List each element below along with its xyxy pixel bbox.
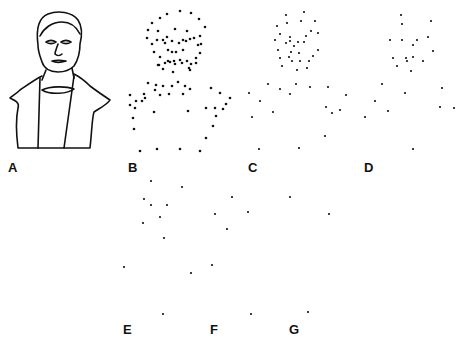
dot xyxy=(293,45,295,47)
dot xyxy=(401,23,403,25)
dot-panel-f xyxy=(162,186,249,315)
dot xyxy=(389,39,391,41)
dot xyxy=(159,17,162,20)
dot xyxy=(171,51,174,54)
dot xyxy=(205,137,208,140)
dot xyxy=(279,88,281,90)
dot xyxy=(164,62,167,65)
dot-panel-e xyxy=(123,180,168,268)
dot xyxy=(400,14,402,16)
dot xyxy=(185,40,188,43)
dot xyxy=(135,100,138,103)
dot xyxy=(307,311,309,313)
dot xyxy=(298,147,300,149)
dot xyxy=(195,62,198,65)
dot xyxy=(162,85,165,88)
dot xyxy=(312,55,314,57)
dot xyxy=(129,104,132,107)
dot xyxy=(214,213,216,215)
dot xyxy=(181,186,183,188)
dot-panel-d xyxy=(364,14,455,150)
dot xyxy=(143,198,145,200)
dot xyxy=(134,107,137,110)
dot xyxy=(156,148,159,151)
dot xyxy=(210,87,213,90)
dot xyxy=(169,61,172,64)
dot xyxy=(247,211,249,213)
dot xyxy=(297,41,299,43)
dot xyxy=(289,196,291,198)
panel-label-b: B xyxy=(128,160,137,175)
dot xyxy=(157,30,160,33)
dot xyxy=(186,60,189,63)
dot xyxy=(248,92,250,94)
dot xyxy=(272,111,274,113)
dot xyxy=(251,116,253,118)
dot xyxy=(439,106,441,108)
dot xyxy=(288,56,290,58)
dot xyxy=(190,12,193,15)
dot xyxy=(156,39,159,42)
dot xyxy=(189,69,192,72)
dot xyxy=(279,33,281,35)
dot xyxy=(285,14,287,16)
dot xyxy=(179,10,182,13)
dot-panel-c xyxy=(248,11,347,150)
dot xyxy=(168,93,171,96)
panel-label-c: C xyxy=(248,160,257,175)
dot xyxy=(430,20,432,22)
dot xyxy=(325,106,327,108)
dot xyxy=(226,228,228,230)
dot xyxy=(412,148,414,150)
dot xyxy=(193,37,196,40)
dot xyxy=(324,135,326,137)
dot xyxy=(276,25,278,27)
dot xyxy=(204,26,207,29)
dot xyxy=(173,60,176,63)
dot xyxy=(281,65,283,67)
dot xyxy=(150,204,152,206)
panel-label-d: D xyxy=(364,160,373,175)
dot xyxy=(267,83,269,85)
dot xyxy=(306,67,308,69)
dot xyxy=(317,49,319,51)
dot xyxy=(174,28,177,31)
panel-label-e: E xyxy=(123,322,132,337)
dot xyxy=(345,94,347,96)
dot xyxy=(405,57,407,59)
dot xyxy=(229,97,232,100)
dot xyxy=(139,150,142,153)
dot xyxy=(178,42,181,45)
dot xyxy=(171,85,174,88)
dot xyxy=(250,313,252,315)
dot xyxy=(184,85,187,88)
dot xyxy=(274,39,276,41)
dot xyxy=(295,83,297,85)
dot xyxy=(162,39,165,42)
dot xyxy=(303,11,305,13)
dot xyxy=(151,43,154,46)
dot xyxy=(162,313,164,315)
dot xyxy=(303,41,305,43)
dot xyxy=(222,108,225,111)
dot xyxy=(327,86,329,88)
panel-label-a: A xyxy=(8,160,17,175)
dot xyxy=(314,20,316,22)
dot xyxy=(154,89,157,92)
dot-panel-b xyxy=(129,10,232,153)
dot xyxy=(310,30,312,32)
dot xyxy=(214,107,217,110)
dot xyxy=(205,107,208,110)
dot xyxy=(259,100,261,102)
dot xyxy=(296,69,298,71)
dot-panel-g xyxy=(250,196,330,315)
dot xyxy=(441,87,443,89)
dot xyxy=(172,71,175,74)
dot xyxy=(195,57,198,60)
figure-canvas xyxy=(0,0,462,339)
dot xyxy=(200,43,203,46)
dot xyxy=(123,266,125,268)
dot xyxy=(404,92,406,94)
dot xyxy=(331,112,333,114)
dot xyxy=(374,100,376,102)
